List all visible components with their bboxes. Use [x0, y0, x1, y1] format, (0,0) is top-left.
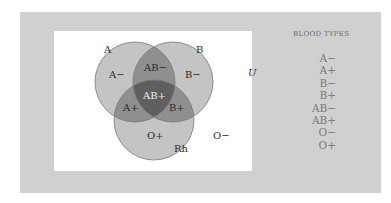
- region-ab-neg: AB−: [143, 62, 167, 73]
- legend-title: BLOOD TYPES: [293, 30, 349, 38]
- legend-item: B+: [300, 89, 336, 101]
- set-rh-label: Rh: [174, 143, 189, 154]
- universe-label: U: [248, 67, 257, 78]
- set-a-label: A: [103, 44, 112, 55]
- region-a-pos: A+: [122, 102, 139, 113]
- region-b-neg: B−: [185, 69, 201, 80]
- legend-item: A−: [300, 52, 336, 64]
- region-o-pos: O+: [147, 130, 164, 141]
- legend-item: O+: [300, 139, 336, 151]
- legend-item: O−: [300, 126, 336, 138]
- region-b-pos: B+: [169, 102, 185, 113]
- set-b-label: B: [196, 44, 203, 55]
- region-ab-pos: AB+: [142, 90, 166, 101]
- legend-item: AB−: [300, 102, 336, 114]
- region-a-neg: A−: [108, 69, 125, 80]
- region-o-neg: O−: [213, 130, 230, 141]
- legend-list: A− A+ B− B+ AB− AB+ O− O+: [300, 52, 336, 151]
- legend-item: B−: [300, 77, 336, 89]
- legend-item: A+: [300, 64, 336, 76]
- legend-item: AB+: [300, 114, 336, 126]
